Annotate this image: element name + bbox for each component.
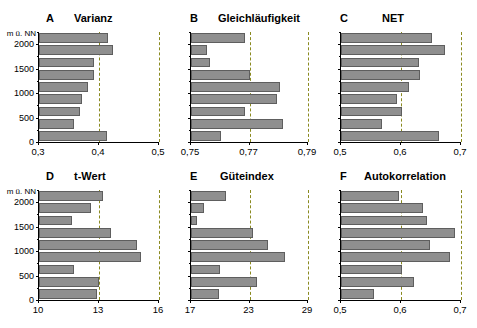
ytick-y-2 (338, 251, 342, 252)
bar (341, 265, 402, 275)
xlabel-1: 0,77 (239, 147, 258, 157)
ytick-y-3 (36, 69, 40, 70)
bar (341, 240, 430, 250)
ytick-y-0 (188, 300, 192, 301)
ytick-minor (339, 239, 342, 240)
gridline-x-2 (308, 190, 309, 300)
ytick-minor (189, 81, 192, 82)
gridline-x-2 (159, 32, 160, 142)
bar (191, 289, 219, 299)
bar (191, 265, 220, 275)
plot-area-f (340, 190, 461, 301)
bar (39, 191, 103, 201)
bars-d (39, 190, 159, 300)
ytick-y-2 (36, 93, 40, 94)
bar (39, 252, 141, 262)
ytick-y-0 (36, 142, 40, 143)
ylabel-0: 0 (2, 296, 34, 305)
ytick-y-1 (36, 276, 40, 277)
panel-title-a: Varianz (74, 12, 113, 24)
bar (341, 289, 374, 299)
bar (341, 82, 409, 92)
ytick-minor (189, 105, 192, 106)
bar (341, 58, 419, 68)
bar (191, 107, 245, 117)
bar (341, 94, 397, 104)
panel-letter-d: D (46, 170, 54, 182)
bar (191, 58, 210, 68)
ytick-y-3 (338, 69, 342, 70)
ytick-y-0 (188, 142, 192, 143)
bar (39, 70, 94, 80)
bar (39, 240, 137, 250)
ytick-y-2 (36, 251, 40, 252)
gridline-x-2 (461, 190, 462, 300)
ytick-minor (189, 239, 192, 240)
panel-letter-b: B (190, 12, 198, 24)
ytick-y-0 (36, 300, 40, 301)
ytick-y-3 (338, 227, 342, 228)
ylabel-4: 2000 (2, 40, 34, 49)
ytick-minor (189, 263, 192, 264)
ytick-minor (189, 56, 192, 57)
ytick-y-4 (188, 44, 192, 45)
xlabel-1: 0,6 (393, 147, 406, 157)
bar (191, 45, 207, 55)
panel-title-d: t-Wert (74, 170, 106, 182)
plot-area-c (340, 32, 461, 143)
bar (39, 131, 107, 141)
ytick-y-4 (36, 44, 40, 45)
ytick-minor (189, 288, 192, 289)
ylabel-1: 500 (2, 271, 34, 280)
ytick-minor (189, 32, 192, 33)
bars-b (191, 32, 308, 142)
bar (39, 94, 82, 104)
bar (341, 252, 450, 262)
ytick-minor (37, 81, 40, 82)
bar (341, 70, 420, 80)
bar (191, 228, 253, 238)
panel-title-b: Gleichläufigkeit (218, 12, 300, 24)
bar (39, 203, 91, 213)
ytick-minor (339, 105, 342, 106)
bars-a (39, 32, 159, 142)
ylabel-0: 0 (2, 138, 34, 147)
bar (341, 131, 439, 141)
gridline-x-2 (159, 190, 160, 300)
xlabel-2: 0,7 (453, 305, 466, 315)
xlabel-0: 0,3 (31, 147, 44, 157)
xlabel-2: 0,5 (151, 147, 164, 157)
ylabel-2: 1000 (2, 89, 34, 98)
bar (191, 33, 245, 43)
bar (341, 107, 402, 117)
bar (191, 203, 204, 213)
xlabel-0: 0,75 (181, 147, 200, 157)
ytick-y-2 (188, 93, 192, 94)
xlabel-0: 17 (185, 305, 196, 315)
bar (39, 119, 74, 129)
panel-letter-f: F (340, 170, 347, 182)
ytick-y-1 (36, 118, 40, 119)
panel-letter-a: A (46, 12, 54, 24)
ytick-minor (37, 105, 40, 106)
bars-c (341, 32, 461, 142)
bar (191, 191, 226, 201)
plot-area-a (38, 32, 159, 143)
bar (191, 70, 250, 80)
ytick-y-3 (188, 227, 192, 228)
ytick-minor (339, 81, 342, 82)
xlabel-1: 23 (243, 305, 254, 315)
bar (341, 191, 399, 201)
ylabel-3: 1500 (2, 64, 34, 73)
ytick-minor (37, 239, 40, 240)
bar (191, 82, 280, 92)
bars-f (341, 190, 461, 300)
figure-multipanel-bar-chart: AVarianz0500100015002000m ü. NN0,30,40,5… (0, 0, 477, 328)
ytick-minor (339, 32, 342, 33)
ytick-y-1 (338, 118, 342, 119)
ytick-minor (189, 130, 192, 131)
ytick-minor (37, 214, 40, 215)
ytick-y-0 (338, 300, 342, 301)
xlabel-0: 10 (33, 305, 44, 315)
ytick-y-2 (338, 93, 342, 94)
